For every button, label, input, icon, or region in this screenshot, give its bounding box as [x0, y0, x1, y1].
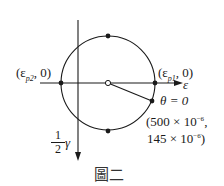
coord-1: (500 × 10 — [146, 114, 197, 129]
principal-point-1 — [153, 81, 158, 86]
mohr-circle-figure — [0, 0, 224, 186]
theta-zero-coordinates-line2: 145 × 10−6) — [147, 129, 205, 146]
center-point — [105, 80, 110, 85]
fraction-numerator: 1 — [51, 129, 65, 143]
label-open: (ε — [16, 65, 26, 80]
fraction-denominator: 2 — [51, 143, 65, 156]
label-sub: p2 — [26, 74, 34, 83]
coord-2: 145 × 10 — [147, 131, 193, 146]
radius-line — [108, 83, 152, 101]
gamma-axis-arrow-icon — [75, 152, 81, 161]
bottom-point — [106, 129, 111, 134]
coord-1-exp: −6 — [197, 115, 204, 123]
label-close: , 0) — [34, 65, 51, 80]
half-gamma-label: 1 2 — [51, 129, 65, 156]
theta-zero-coordinates-line1: (500 × 10−6, — [146, 112, 207, 129]
coord-1-end: , — [204, 114, 207, 129]
top-point — [106, 34, 111, 39]
label-sub: p1 — [168, 74, 176, 83]
coord-2-exp: −6 — [193, 132, 200, 140]
label-open: (ε — [158, 65, 168, 80]
gamma-symbol: γ — [65, 136, 70, 150]
principal-strain-2-label: (εp2, 0) — [16, 66, 51, 86]
epsilon-axis-label: ε — [183, 78, 188, 92]
theta-zero-label: θ = 0 — [160, 94, 188, 108]
coord-2-end: ) — [201, 131, 205, 146]
theta-zero-point — [150, 99, 155, 104]
figure-caption: 圖二 — [94, 163, 124, 184]
principal-point-2 — [59, 81, 64, 86]
